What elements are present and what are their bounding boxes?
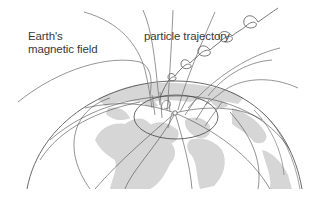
- magnetic-field-lines: [18, 10, 298, 128]
- earth-magnetic-field-label: Earth's magnetic field: [28, 30, 98, 56]
- particle-trajectory-label: particle trajectory: [144, 30, 230, 43]
- continents: [95, 83, 292, 189]
- magnetic-pole: [173, 111, 177, 115]
- earth-field-label-line2: magnetic field: [28, 43, 98, 56]
- earth-field-label-line1: Earth's: [28, 30, 98, 43]
